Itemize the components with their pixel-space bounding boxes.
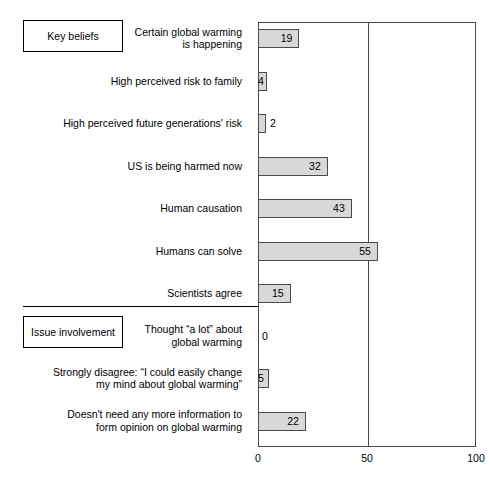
category-label: Certain global warming is happening (17, 26, 242, 51)
axis-tick-50: 50 (347, 452, 387, 464)
bar-container: 55 (258, 242, 378, 261)
bar-value-label: 5 (258, 369, 269, 388)
bar-value-label: 15 (258, 284, 291, 303)
bar-container: 22 (258, 412, 306, 431)
bar-value-label: 19 (258, 29, 299, 48)
category-label: US is being harmed now (17, 160, 242, 173)
bar-container: 43 (258, 199, 352, 218)
bar (258, 114, 266, 133)
axis-tick-0: 0 (238, 452, 278, 464)
bar-value-label: 4 (258, 72, 267, 91)
category-label: High perceived risk to family (17, 75, 242, 88)
bar-value-label: 55 (258, 242, 378, 261)
bar-row: High perceived future generations' risk2 (0, 110, 491, 153)
bar-row: Scientists agree15 (0, 280, 491, 323)
bar-row: Certain global warming is happening19 (0, 25, 491, 68)
category-label: Scientists agree (17, 287, 242, 300)
bar-value-label: 43 (258, 199, 352, 218)
bar-container: 4 (258, 72, 267, 91)
bar-row: Humans can solve55 (0, 238, 491, 281)
category-label: Thought “a lot” about global warming (17, 323, 242, 348)
bar-row: Doesn't need any more information to for… (0, 408, 491, 451)
category-label: Humans can solve (17, 245, 242, 258)
category-label: Human causation (17, 202, 242, 215)
bar-container: 15 (258, 284, 291, 303)
bar-container: 0 (258, 327, 259, 346)
category-label: Doesn't need any more information to for… (17, 408, 242, 433)
bar-value-label: 0 (258, 327, 268, 346)
bar-chart-figure: Key beliefs Issue involvement Certain gl… (0, 0, 491, 487)
bar-value-label: 22 (258, 412, 306, 431)
bar-container: 32 (258, 157, 328, 176)
bar-row: US is being harmed now32 (0, 153, 491, 196)
bar-value-label: 2 (266, 114, 276, 133)
bar-container: 19 (258, 29, 299, 48)
axis-tick-100: 100 (456, 452, 491, 464)
category-label: Strongly disagree: “I could easily chang… (17, 366, 242, 391)
bar-container: 2 (258, 114, 262, 133)
bar-row: Thought “a lot” about global warming0 (0, 323, 491, 366)
bar-row: High perceived risk to family4 (0, 68, 491, 111)
bar-row: Strongly disagree: “I could easily chang… (0, 365, 491, 408)
bar-value-label: 32 (258, 157, 328, 176)
category-label: High perceived future generations' risk (17, 117, 242, 130)
bar-container: 5 (258, 369, 269, 388)
bar-row: Human causation43 (0, 195, 491, 238)
